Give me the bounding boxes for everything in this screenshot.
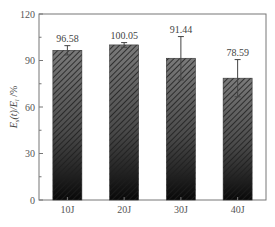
bar-10J: 96.58: [53, 33, 82, 200]
bar-20J: 100.05: [110, 30, 139, 200]
bar-30J: 91.44: [166, 24, 195, 200]
y-tick-label: 120: [20, 9, 35, 20]
value-label: 91.44: [170, 24, 193, 35]
bar-40J: 78.59: [223, 47, 252, 200]
value-label: 96.58: [56, 33, 79, 44]
x-tick-label: 10J: [60, 204, 74, 215]
value-label: 100.05: [110, 30, 138, 41]
bars-group: 96.58100.0591.4478.59: [53, 24, 252, 200]
bar-chart: 0306090120 96.58100.0591.4478.59 10J20J3…: [0, 0, 275, 227]
value-label: 78.59: [226, 47, 249, 58]
y-axis: 0306090120: [20, 9, 43, 206]
x-tick-label: 20J: [117, 204, 131, 215]
y-tick-label: 60: [25, 102, 35, 113]
bar-hatch: [53, 50, 82, 200]
x-tick-label: 30J: [174, 204, 188, 215]
y-axis-label: Es(t)/Ei /%: [8, 86, 21, 130]
y-tick-label: 90: [25, 55, 35, 66]
bar-hatch: [110, 45, 139, 200]
x-tick-label: 40J: [231, 204, 245, 215]
y-tick-label: 0: [30, 195, 35, 206]
y-tick-label: 30: [25, 148, 35, 159]
